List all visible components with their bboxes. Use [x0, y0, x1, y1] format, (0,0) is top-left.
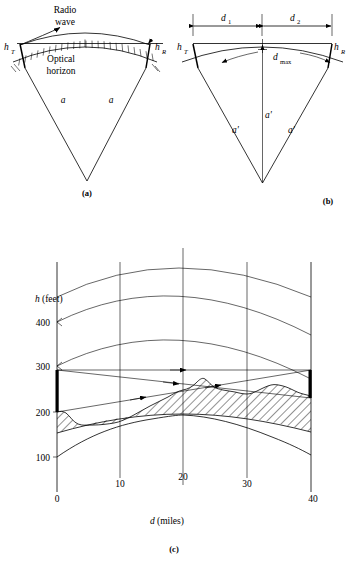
y-axis-title-symbol: h	[35, 294, 40, 304]
h-r-subscript-b: R	[340, 48, 345, 55]
gridline-400	[57, 296, 311, 335]
radius-label-mid-b: a'	[265, 110, 273, 120]
y-axis-title: h (feet)	[35, 294, 63, 305]
dmax-arrow-left	[222, 52, 258, 63]
xtick-label-30: 30	[242, 479, 252, 489]
transmitter-mast-b	[193, 44, 198, 68]
h-t-label-b: h T	[177, 42, 189, 55]
dmax-arrow-right	[300, 53, 330, 63]
h-r-subscript: R	[161, 48, 166, 55]
h-t-symbol-b: h	[177, 42, 182, 52]
dmax-symbol: d	[273, 52, 278, 62]
optical-horizon-hatch	[11, 41, 160, 72]
radius-label-left-a: a	[61, 95, 66, 105]
radius-label-right-b: a'	[288, 125, 296, 135]
radius-line-left-b	[198, 68, 263, 183]
x-axis-title-symbol: d	[150, 516, 155, 526]
panel-b: d 1 d 2 h T h R d max a' a' a'	[177, 13, 345, 206]
dmax-subscript: max	[280, 58, 292, 65]
radio-wave-label-line1: Radio	[54, 5, 77, 15]
radio-wave-label-line2: wave	[55, 17, 75, 27]
figure-svg: Radio wave Optical horizon h T h R a a (…	[0, 0, 348, 563]
height-gridlines	[57, 268, 311, 379]
xtick-label-20: 20	[178, 472, 188, 482]
radius-label-right-a: a	[109, 95, 114, 105]
ray-rising-arrow1	[130, 397, 146, 400]
h-t-subscript: T	[11, 48, 16, 55]
h-r-label-b: h R	[334, 42, 345, 55]
optical-horizon-label-line2: horizon	[46, 66, 75, 76]
ytick-label-300: 300	[36, 362, 51, 372]
h-t-symbol: h	[4, 42, 9, 52]
ytick-label-100: 100	[36, 453, 51, 463]
d1-subscript: 1	[228, 18, 231, 25]
xtick-label-0: 0	[55, 494, 60, 504]
figure-radio-horizon: Radio wave Optical horizon h T h R a a (…	[0, 0, 348, 563]
ytick-label-200: 200	[36, 408, 51, 418]
xtick-label-10: 10	[115, 479, 125, 489]
gridline-450	[57, 268, 311, 297]
distance-gridlines	[120, 248, 247, 485]
transmitter-mast-a	[20, 44, 25, 68]
y-axis-title-unit: (feet)	[42, 294, 63, 305]
panel-a: Radio wave Optical horizon h T h R a a (…	[4, 5, 166, 198]
h-r-symbol-b: h	[334, 42, 339, 52]
radius-line-left-a	[25, 68, 87, 181]
panel-caption-b: (b)	[323, 196, 334, 206]
panel-c-chart: 400 300 200 100 0 10 20 30 40 h (feet) d…	[35, 248, 318, 554]
xtick-label-40: 40	[308, 494, 318, 504]
gridline-300	[57, 340, 311, 379]
radio-wave-arrow	[20, 27, 60, 45]
h-t-label-a: h T	[4, 42, 16, 55]
los-arrow-a	[149, 39, 153, 44]
d2-symbol: d	[290, 13, 295, 23]
radius-line-right-a	[87, 68, 146, 181]
ytick-label-400: 400	[36, 318, 51, 328]
radius-line-right-b	[263, 68, 329, 183]
x-axis-title: d (miles)	[150, 516, 184, 527]
d1-symbol: d	[221, 13, 226, 23]
d2-subscript: 2	[297, 18, 300, 25]
receiver-mast-b	[328, 44, 332, 68]
h-t-subscript-b: T	[184, 48, 189, 55]
h-r-symbol: h	[155, 42, 160, 52]
radius-label-left-b: a'	[232, 125, 240, 135]
panel-caption-c: (c)	[169, 544, 179, 554]
optical-horizon-label-line1: Optical	[47, 54, 75, 64]
x-axis-title-unit: (miles)	[157, 516, 184, 527]
panel-caption-a: (a)	[82, 188, 92, 198]
